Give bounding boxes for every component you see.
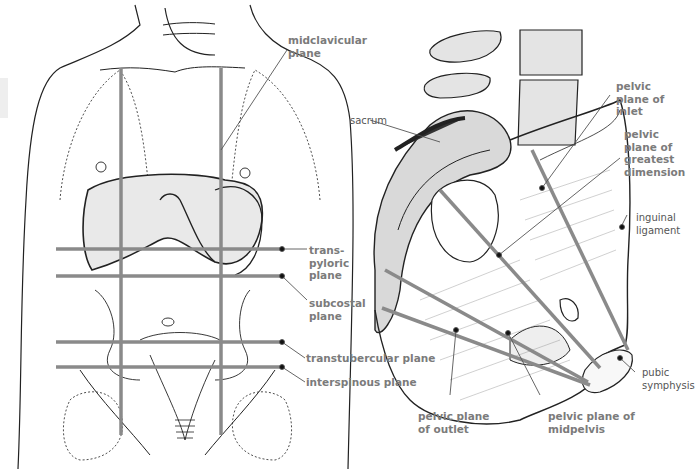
label-transtubercular-plane: transtubercular plane — [306, 352, 435, 365]
label-midclavicular-plane: midclavicular plane — [288, 34, 367, 59]
label-transpyloric-plane: trans- pyloric plane — [309, 244, 349, 282]
label-interspinous-plane: interspinous plane — [306, 376, 417, 389]
pelvis-drawing — [374, 30, 632, 424]
label-pelvic-plane-inlet: pelvic plane of inlet — [616, 80, 664, 118]
label-pubic-symphysis: pubic symphysis — [642, 367, 695, 392]
label-sacrum: sacrum — [350, 115, 387, 128]
label-pelvic-plane-midpelvis: pelvic plane of midpelvis — [548, 410, 635, 435]
label-pelvic-plane-outlet: pelvic plane of outlet — [418, 410, 489, 435]
label-pelvic-plane-greatest: pelvic plane of greatest dimension — [624, 128, 685, 178]
label-subcostal-plane: subcostal plane — [309, 297, 366, 322]
midpelvis-line — [385, 270, 588, 382]
torso-drawing — [18, 5, 353, 469]
label-inguinal-ligament: inguinal ligament — [636, 212, 680, 237]
